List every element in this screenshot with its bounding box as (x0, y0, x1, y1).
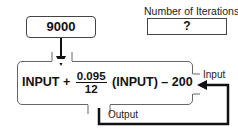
formula-suffix: (INPUT) – 200 (112, 75, 193, 89)
rate-fraction: 0.095 12 (76, 70, 107, 95)
output-label: Output (108, 109, 138, 120)
fraction-numerator: 0.095 (76, 70, 107, 83)
input-label: Input (203, 69, 225, 80)
function-formula: INPUT + 0.095 12 (INPUT) – 200 (22, 70, 193, 95)
fraction-denominator: 12 (76, 83, 107, 95)
formula-prefix: INPUT + (22, 75, 70, 89)
